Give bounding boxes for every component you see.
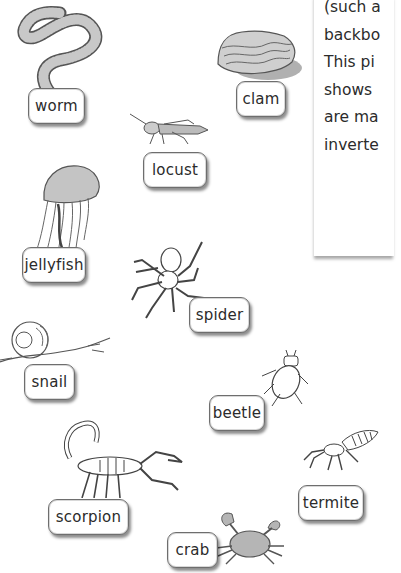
label-termite: termite — [298, 485, 364, 521]
info-text: (such a backbo This pi shows are ma inve… — [324, 0, 401, 159]
info-text-panel: (such a backbo This pi shows are ma inve… — [313, 0, 394, 256]
label-beetle: beetle — [209, 395, 265, 431]
info-line-2: backbo — [324, 22, 401, 50]
info-line-4: shows — [324, 77, 401, 105]
info-line-3: This pi — [324, 49, 401, 77]
beetle-illustration — [258, 348, 310, 408]
label-worm: worm — [28, 88, 85, 124]
locust-illustration — [128, 110, 212, 146]
clam-illustration — [212, 26, 304, 82]
info-line-6: inverte — [324, 132, 401, 160]
info-line-1: (such a — [324, 0, 401, 22]
termite-illustration — [302, 424, 380, 472]
worm-illustration — [10, 5, 110, 95]
snail-illustration — [0, 318, 115, 366]
label-clam: clam — [236, 81, 286, 117]
label-crab: crab — [167, 532, 218, 568]
label-snail: snail — [24, 364, 75, 400]
label-jellyfish: jellyfish — [22, 247, 86, 283]
scorpion-illustration — [60, 418, 185, 498]
crab-illustration — [212, 510, 287, 570]
label-scorpion: scorpion — [48, 499, 129, 535]
jellyfish-illustration — [28, 160, 108, 255]
label-spider: spider — [189, 297, 250, 333]
label-locust: locust — [143, 152, 207, 188]
info-line-5: are ma — [324, 104, 401, 132]
